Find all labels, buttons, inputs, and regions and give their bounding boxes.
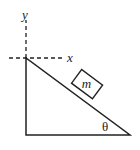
incline-diagram: y x m θ xyxy=(0,0,140,150)
y-axis-label: y xyxy=(20,7,28,22)
block: m xyxy=(72,69,104,99)
x-axis-label: x xyxy=(66,50,73,65)
block-mass-label: m xyxy=(82,76,91,91)
diagram-canvas: y x m θ xyxy=(0,0,140,150)
angle-label: θ xyxy=(102,119,108,134)
incline-triangle xyxy=(26,58,130,135)
